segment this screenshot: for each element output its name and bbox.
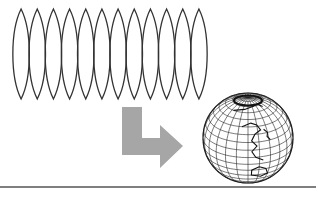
arrow-icon [122, 107, 183, 168]
gore-segment [158, 9, 174, 99]
globe-icon [203, 93, 293, 183]
gore-segment [94, 9, 110, 99]
diagram-canvas [0, 0, 318, 201]
gore-segment [78, 9, 94, 99]
gore-segment [110, 9, 126, 99]
gore-segment [175, 9, 191, 99]
gore-segment [142, 9, 158, 99]
gore-segment [126, 9, 142, 99]
gore-segment [191, 9, 207, 99]
gore-segment [61, 9, 77, 99]
map-gores [13, 9, 207, 99]
gore-segment [45, 9, 61, 99]
gore-segment [13, 9, 29, 99]
gore-segment [29, 9, 45, 99]
gore-to-globe-illustration [0, 0, 318, 201]
